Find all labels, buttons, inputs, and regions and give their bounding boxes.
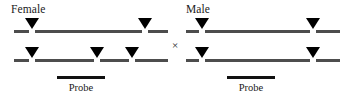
male-bottom-notch-1 [199, 58, 205, 63]
male-top-marker-1 [195, 18, 209, 29]
male-top-marker-2 [306, 18, 320, 29]
male-bottom-marker-2 [306, 47, 320, 58]
male-group: Male Probe [0, 0, 348, 97]
diagram-canvas: Female Probe × Male [0, 0, 348, 97]
male-bottom-marker-1 [195, 47, 209, 58]
male-chromosome-top-bar [186, 30, 340, 33]
male-bottom-notch-2 [310, 58, 316, 63]
male-top-notch-2 [310, 29, 316, 34]
male-probe-label: Probe [227, 82, 275, 93]
male-top-notch-1 [199, 29, 205, 34]
male-probe-bar [227, 76, 275, 79]
male-label: Male [186, 3, 210, 15]
male-chromosome-bottom-bar [186, 59, 340, 62]
